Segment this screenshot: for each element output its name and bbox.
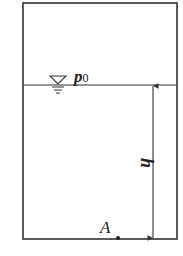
point-a-label: A <box>99 218 111 237</box>
tank-container <box>23 3 177 239</box>
depth-label: h <box>137 158 157 168</box>
pressure-label: p0 <box>72 67 89 86</box>
point-a-marker <box>116 236 120 240</box>
tank-diagram: p0 h A <box>0 0 183 256</box>
